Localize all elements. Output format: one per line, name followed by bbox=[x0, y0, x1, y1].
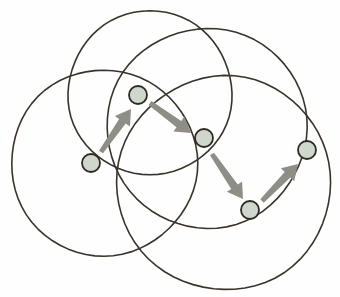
node-right[interactable]: node-right bbox=[298, 141, 316, 159]
circle-lower-right bbox=[117, 75, 331, 289]
nodes-layer: node-topnode-leftnode-middlenode-bottomn… bbox=[82, 86, 316, 219]
circles-layer bbox=[12, 11, 331, 290]
circle-upper-right bbox=[107, 29, 307, 229]
node-left-marker[interactable] bbox=[82, 154, 100, 172]
circle-top bbox=[68, 11, 232, 175]
node-bottom-marker[interactable] bbox=[241, 201, 259, 219]
node-middle[interactable]: node-middle bbox=[195, 129, 213, 147]
arrows-layer bbox=[99, 101, 298, 203]
circle-left bbox=[12, 70, 198, 256]
arrow-left-to-top bbox=[99, 109, 131, 153]
node-right-marker[interactable] bbox=[298, 141, 316, 159]
circles-nodes-diagram: node-topnode-leftnode-middlenode-bottomn… bbox=[0, 0, 340, 297]
arrow-middle-to-bottom bbox=[210, 153, 243, 199]
node-left[interactable]: node-left bbox=[82, 154, 100, 172]
node-bottom[interactable]: node-bottom bbox=[241, 201, 259, 219]
node-middle-marker[interactable] bbox=[195, 129, 213, 147]
node-top-marker[interactable] bbox=[129, 86, 147, 104]
node-top[interactable]: node-top bbox=[129, 86, 147, 104]
diagram-canvas: node-topnode-leftnode-middlenode-bottomn… bbox=[0, 0, 340, 297]
